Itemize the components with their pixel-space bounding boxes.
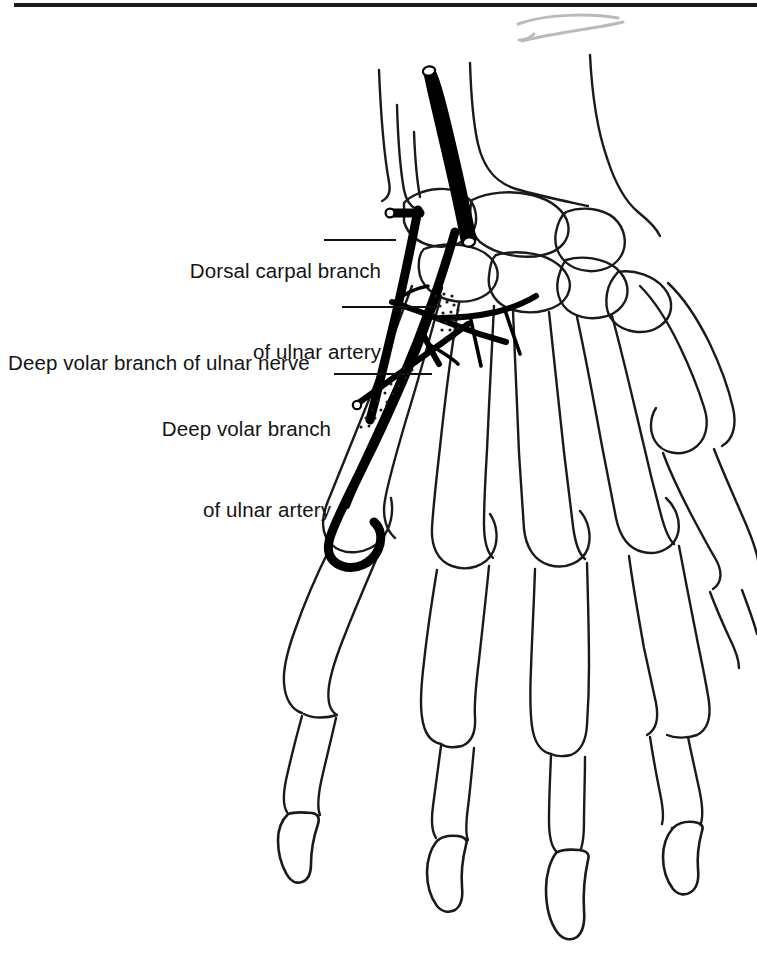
metacarpal-3-bone [513,311,590,566]
dorsal-carpal-branch-lumen [386,209,395,218]
proximal-phalanx-4-lateral [441,566,489,747]
middle-phalanx-4 [432,746,441,838]
distal-phalanx-2 [663,822,703,895]
metacarpal-2-lateral [612,316,674,544]
metacarpal-1-medial [668,283,735,446]
distal-phalanx-3 [546,850,589,940]
middle-phalanx-5 [284,716,302,812]
distal-phalanx-4 [427,836,467,912]
label-deep-artery-line2: of ulnar artery [120,496,331,523]
trapezium-bone [606,271,671,332]
metacarpal-2-bone [577,317,679,553]
radius-lateral-border [590,55,660,236]
middle-phalanx-2-lateral [672,737,702,830]
lunate-bone [470,192,568,256]
pencil-sketch-mark [518,15,623,41]
label-deep-artery-line1: Deep volar branch [120,415,331,442]
middle-phalanx-3 [549,756,556,851]
label-dorsal-carpal-line1: Dorsal carpal branch [136,257,381,284]
middle-phalanx-4-lateral [443,748,474,843]
ulnar-artery-cut-segment [422,65,476,248]
label-deep-volar-branch-ulnar-artery: Deep volar branch of ulnar artery [120,361,331,577]
radius-bone [470,63,588,206]
ulna-styloid [414,132,420,197]
ulna-head [397,105,416,209]
proximal-phalanx-3 [530,569,551,754]
distal-phalanges [278,812,703,939]
distal-phalanx-5 [278,812,319,882]
proximal-phalanx-2 [629,556,657,735]
ulnar-artery-tube [424,70,476,244]
deep-palmar-arch [440,296,536,318]
palmar-metacarpal-branch-a [470,316,481,366]
proximal-phalanges [284,449,757,756]
middle-phalanx-3-lateral [556,757,585,856]
middle-phalanx-2 [650,737,663,824]
proximal-phalanx-1-lateral [714,449,757,560]
hamate-bone [419,245,498,302]
proximal-phalanx-3-lateral [551,563,589,756]
trapezoid-bone [557,258,627,319]
distal-phalanx-1-thumb-lateral [742,590,757,634]
hand-skeleton-illustration [0,0,757,954]
distal-phalanx-1-thumb [710,592,739,668]
ulna-bone [379,70,390,201]
metacarpal-3-lateral [549,312,585,559]
proximal-phalanx-2-lateral [667,546,710,738]
proximal-phalanx-4 [421,570,441,744]
middle-phalanges [284,590,757,856]
figure-page: Dorsal carpal branch of ulnar artery Dee… [0,0,757,954]
middle-phalanx-5-lateral [298,718,336,817]
metacarpal-1-bone [640,286,707,453]
proximal-phalanx-1 [663,453,720,589]
